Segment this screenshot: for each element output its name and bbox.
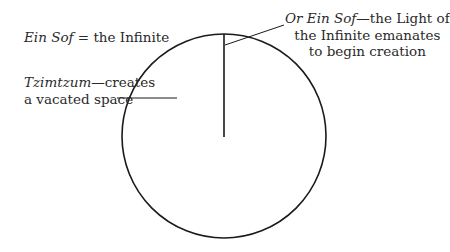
- ein-sof-label: Ein Sof = the Infinite: [24, 29, 169, 46]
- or-ein-sof-term: Or Ein Sof: [285, 10, 356, 26]
- tzimtzum-label: Tzimtzum—creates a vacated space: [24, 74, 155, 107]
- or-ein-sof-line1: —the Light of: [356, 10, 449, 26]
- ein-sof-term: Ein Sof: [24, 29, 74, 45]
- tzimtzum-line2: a vacated space: [24, 91, 155, 108]
- or-ein-sof-label: Or Ein Sof—the Light of the Infinite ema…: [285, 10, 450, 60]
- or-ein-sof-line2: the Infinite emanates: [285, 27, 450, 44]
- ein-sof-definition: = the Infinite: [74, 29, 170, 45]
- or-ein-sof-line3: to begin creation: [285, 43, 450, 60]
- tzimtzum-line1: —creates: [91, 74, 155, 90]
- tzimtzum-term: Tzimtzum: [24, 74, 91, 90]
